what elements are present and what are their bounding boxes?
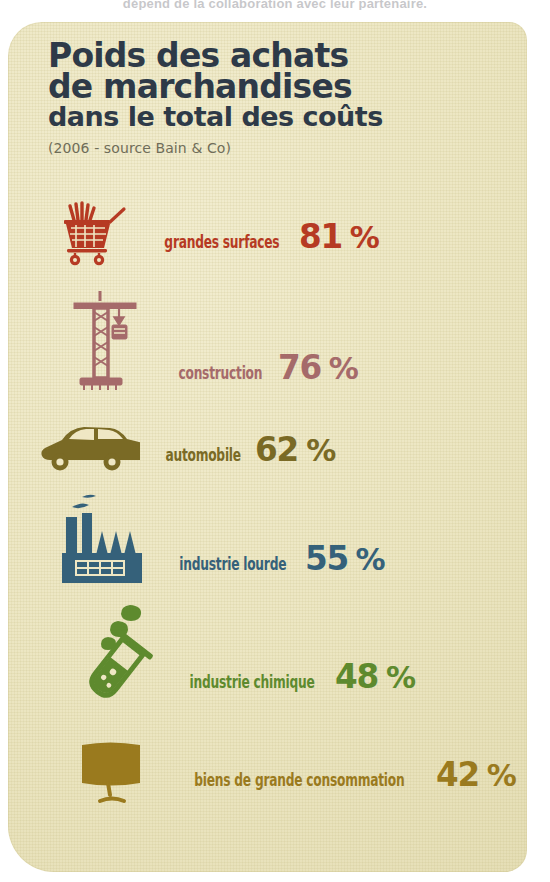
percent-sign: % bbox=[329, 351, 359, 386]
table-row: automobile 62 % bbox=[8, 412, 527, 486]
row-value: 81 bbox=[299, 216, 342, 256]
construction-crane-icon bbox=[70, 289, 154, 405]
row-category: grandes surfaces bbox=[164, 232, 279, 252]
heading-block: Poids des achats de marchandises dans le… bbox=[48, 40, 478, 156]
table-row: construction 76 % bbox=[8, 282, 527, 412]
row-label-group: industrie lourde 55 % bbox=[166, 538, 385, 578]
row-value: 55 bbox=[304, 538, 347, 578]
row-label-group: automobile 62 % bbox=[156, 429, 336, 469]
row-label-group: industrie chimique 48 % bbox=[174, 656, 416, 696]
cut-off-body-text: dépend de la collaboration avec leur par… bbox=[0, 0, 550, 10]
percent-sign: % bbox=[350, 220, 380, 255]
row-label-group: construction 76 % bbox=[168, 347, 358, 387]
row-value: 62 bbox=[255, 429, 298, 469]
infographic-card: Poids des achats de marchandises dans le… bbox=[8, 22, 527, 872]
percent-sign: % bbox=[386, 660, 416, 695]
table-row: industrie lourde 55 % bbox=[8, 486, 527, 596]
table-row: industrie chimique 48 % bbox=[8, 596, 527, 718]
title-line-3: dans le total des coûts bbox=[48, 102, 478, 131]
row-category: industrie lourde bbox=[179, 554, 286, 574]
row-label-group: biens de grande consommation 42 % bbox=[168, 754, 516, 794]
row-category: construction bbox=[178, 363, 262, 383]
row-value: 48 bbox=[335, 656, 378, 696]
shopping-cart-icon bbox=[54, 200, 132, 272]
row-value: 42 bbox=[436, 754, 479, 794]
car-icon bbox=[36, 422, 140, 476]
row-category: automobile bbox=[165, 445, 240, 465]
factory-icon bbox=[58, 491, 150, 591]
row-label-group: grandes surfaces 81 % bbox=[150, 216, 379, 256]
source-subtitle: (2006 - source Bain & Co) bbox=[48, 140, 478, 156]
percent-sign: % bbox=[356, 542, 386, 577]
percent-sign: % bbox=[487, 758, 517, 793]
row-category: biens de grande consommation bbox=[194, 770, 404, 790]
table-row: biens de grande consommation 42 % bbox=[8, 718, 527, 824]
row-value: 76 bbox=[278, 347, 321, 387]
page-title: Poids des achats de marchandises dans le… bbox=[48, 40, 478, 131]
table-row: grandes surfaces 81 % bbox=[8, 190, 527, 282]
data-row-list: grandes surfaces 81 % bbox=[8, 190, 527, 824]
title-line-2: de marchandises bbox=[48, 71, 478, 102]
row-category: industrie chimique bbox=[190, 672, 315, 692]
test-tube-icon bbox=[70, 601, 160, 713]
percent-sign: % bbox=[306, 433, 336, 468]
television-icon bbox=[74, 735, 150, 807]
